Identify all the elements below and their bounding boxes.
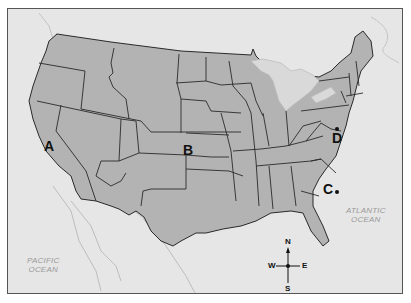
atlantic-line2: OCEAN [346,215,386,224]
pacific-line2: OCEAN [27,265,59,274]
pacific-line1: PACIFIC [27,256,59,265]
marker-a: A [44,139,54,153]
marker-c-dot [335,190,339,194]
us-map [8,9,403,294]
map-frame: A B C D PACIFIC OCEAN ATLANTIC OCEAN N S… [7,8,403,294]
marker-d: D [332,131,342,145]
compass-rose: N S W E [268,235,308,294]
atlantic-ocean-label: ATLANTIC OCEAN [346,206,386,224]
pacific-ocean-label: PACIFIC OCEAN [27,256,59,274]
compass-w: W [268,262,276,270]
marker-c: C [323,182,333,196]
marker-b: B [183,143,193,157]
compass-e: E [302,262,307,270]
compass-n: N [285,238,291,246]
atlantic-line1: ATLANTIC [346,206,386,215]
compass-s: S [285,285,290,293]
